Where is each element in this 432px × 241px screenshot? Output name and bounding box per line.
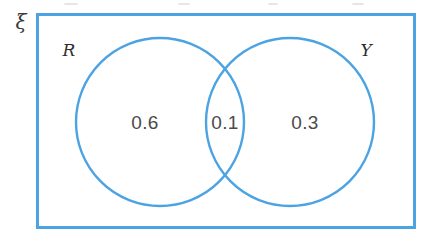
set-label-R: R bbox=[62, 40, 76, 60]
region-value-intersection: 0.1 bbox=[211, 112, 239, 133]
region-value-y-only: 0.3 bbox=[291, 112, 319, 133]
universal-set-label: ξ bbox=[15, 10, 27, 34]
region-value-r-only: 0.6 bbox=[131, 112, 159, 133]
set-label-Y: Y bbox=[360, 40, 373, 60]
venn-diagram-figure: ξ R Y 0.6 0.1 0.3 bbox=[0, 0, 432, 241]
venn-canvas: ξ R Y 0.6 0.1 0.3 bbox=[0, 0, 432, 241]
